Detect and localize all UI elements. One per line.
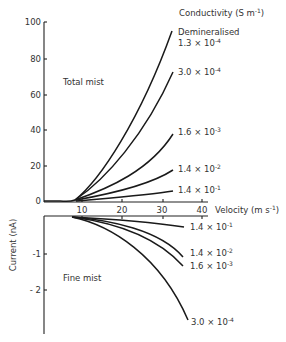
tick-40: 40 [30, 125, 41, 135]
label-upper-1-4e-2: 1.4 × 10-2 [178, 163, 221, 174]
y-axis-label: Current (nA) [8, 219, 18, 271]
x-tick-labels: 10 20 30 40 [77, 205, 208, 215]
upper-panel [44, 22, 208, 202]
label-upper-1-6e-3: 1.6 × 10-3 [178, 126, 221, 137]
tick-80: 80 [30, 54, 41, 64]
upper-curves [44, 31, 173, 201]
tick-x-20: 20 [117, 205, 128, 215]
tick-100: 100 [25, 17, 41, 27]
lower-curves [72, 217, 188, 320]
fine-mist-label: Fine mist [63, 273, 102, 283]
label-upper-1-3e-4: 1.3 × 10-4 [178, 37, 221, 48]
curve-lower-3e-4 [72, 217, 188, 320]
label-demineralised: Demineralised [178, 27, 240, 37]
x-axis-label: Velocity (m s-1) [215, 204, 279, 215]
upper-y-tick-labels: 100 80 60 40 20 0 [25, 17, 41, 206]
label-lower-1-4e-1: 1.4 × 10-1 [190, 221, 233, 232]
tick-x-40: 40 [197, 205, 208, 215]
label-upper-1-4e-1: 1.4 × 10-1 [178, 184, 221, 195]
lower-y-tick-labels: -1 - 2 [30, 249, 41, 295]
label-upper-3e-4: 3.0 × 10-4 [178, 66, 221, 77]
tick-x-10: 10 [77, 205, 88, 215]
tick-x-30: 30 [157, 205, 168, 215]
legend-title: Conductivity (S m-1) [179, 7, 264, 18]
tick-neg1: -1 [33, 249, 41, 259]
curve-demineralised [44, 31, 172, 201]
curve-1-4e-1 [76, 191, 173, 201]
tick-0: 0 [36, 196, 41, 206]
label-lower-1-6e-3: 1.6 × 10-3 [190, 260, 233, 271]
total-mist-label: Total mist [62, 77, 105, 87]
label-lower-3e-4: 3.0 × 10-4 [191, 316, 234, 327]
label-lower-1-4e-2: 1.4 × 10-2 [190, 247, 233, 258]
chart-figure: 100 80 60 40 20 0 10 20 30 40 Velocity (… [0, 0, 286, 342]
tick-neg2: - 2 [30, 285, 41, 295]
tick-60: 60 [30, 90, 41, 100]
tick-20: 20 [30, 161, 41, 171]
